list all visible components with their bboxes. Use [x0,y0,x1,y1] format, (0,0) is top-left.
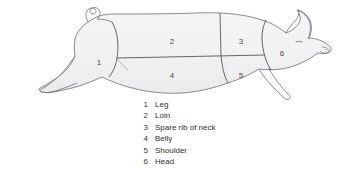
legend-label: Leg [155,99,168,110]
pig-body-shape [0,0,339,102]
cut-number-3: 3 [239,37,244,46]
cut-number-1: 1 [97,58,102,67]
legend-label: Belly [155,133,172,144]
legend-number: 6 [135,156,148,167]
legend-item: 1 Leg [135,99,325,110]
legend-item: 3 Spare rib of neck [135,122,325,133]
legend-item: 5 Shoulder [135,145,325,156]
cut-number-6: 6 [280,49,285,58]
cut-number-2: 2 [170,37,175,46]
legend-label: Head [155,156,174,167]
legend-number: 3 [135,122,148,133]
legend-label: Shoulder [155,145,187,156]
legend-number: 1 [135,99,148,110]
legend-item: 4 Belly [135,133,325,144]
legend-item: 6 Head [135,156,325,167]
legend: 1 Leg 2 Loin 3 Spare rib of neck 4 Belly… [135,99,325,167]
pig-cuts-diagram: 1 2 3 4 5 6 1 Leg 2 Loin 3 Spare rib of … [0,0,339,171]
pig-front-leg [259,68,290,99]
legend-number: 2 [135,110,148,121]
legend-number: 5 [135,145,148,156]
legend-label: Loin [155,110,170,121]
legend-item: 2 Loin [135,110,325,121]
cut-number-4: 4 [170,71,175,80]
legend-label: Spare rib of neck [155,122,215,133]
cut-number-5: 5 [239,71,244,80]
pig-illustration: 1 2 3 4 5 6 [0,0,339,102]
legend-number: 4 [135,133,148,144]
